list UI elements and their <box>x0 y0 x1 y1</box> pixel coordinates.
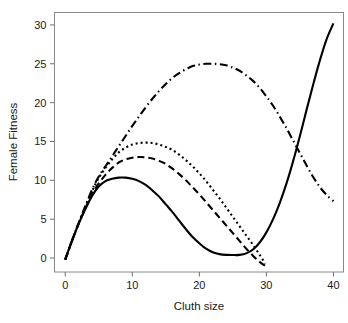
y-tick-label-20: 20 <box>34 97 46 109</box>
x-tick-label-30: 30 <box>260 279 272 291</box>
y-tick-label-0: 0 <box>40 252 46 264</box>
x-axis-ticks <box>65 272 333 277</box>
x-tick-label-10: 10 <box>126 279 138 291</box>
x-axis-tick-labels: 010203040 <box>62 279 339 291</box>
plot-frame <box>55 13 344 273</box>
y-tick-label-15: 15 <box>34 135 46 147</box>
y-axis-title: Female Fitness <box>7 102 19 181</box>
x-tick-label-0: 0 <box>62 279 68 291</box>
y-tick-label-10: 10 <box>34 174 46 186</box>
x-axis-title: Cluth size <box>174 300 225 312</box>
data-curves <box>65 23 333 265</box>
y-tick-label-25: 25 <box>34 58 46 70</box>
chart-plot-area: 010203040 051015202530 Cluth size Female… <box>0 0 348 323</box>
y-axis-ticks <box>50 25 55 258</box>
y-tick-label-30: 30 <box>34 19 46 31</box>
x-tick-label-40: 40 <box>327 279 339 291</box>
dashed-curve <box>65 157 265 266</box>
chart-figure: 010203040 051015202530 Cluth size Female… <box>0 0 348 323</box>
y-axis-tick-labels: 051015202530 <box>34 19 46 264</box>
y-tick-label-5: 5 <box>40 213 46 225</box>
x-tick-label-20: 20 <box>193 279 205 291</box>
